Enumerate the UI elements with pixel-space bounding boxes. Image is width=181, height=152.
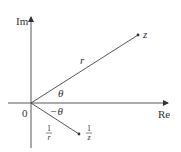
angle-neg-theta-label: −θ [50,105,63,117]
point-z [137,34,140,37]
complex-plane-diagram: Im Re 0 z r θ −θ 1 r 1 z [0,0,181,152]
point-inverse-numerator: 1 [87,124,91,133]
length-inverse-r-numerator: 1 [47,124,51,133]
angle-theta-label: θ [58,87,64,99]
real-axis-label: Re [158,108,170,120]
segment-to-z [31,35,138,103]
point-inverse-denominator: z [86,133,91,142]
point-z-label: z [142,28,148,40]
point-inverse [78,133,81,136]
length-r-label: r [80,54,85,66]
origin-label: 0 [22,107,28,119]
imaginary-axis-label: Im [16,15,29,27]
length-inverse-r-denominator: r [47,133,51,142]
